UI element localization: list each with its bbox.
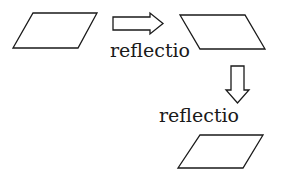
down-arrow-icon xyxy=(226,66,249,103)
reflection-label-1: reflectio xyxy=(110,41,190,60)
reflected-parallelogram xyxy=(180,15,265,49)
twice-reflected-parallelogram xyxy=(178,135,263,168)
reflection-label-2: reflectio xyxy=(159,106,239,125)
original-parallelogram xyxy=(13,13,97,48)
right-arrow-icon xyxy=(113,13,163,34)
reflection-diagram xyxy=(0,0,281,175)
